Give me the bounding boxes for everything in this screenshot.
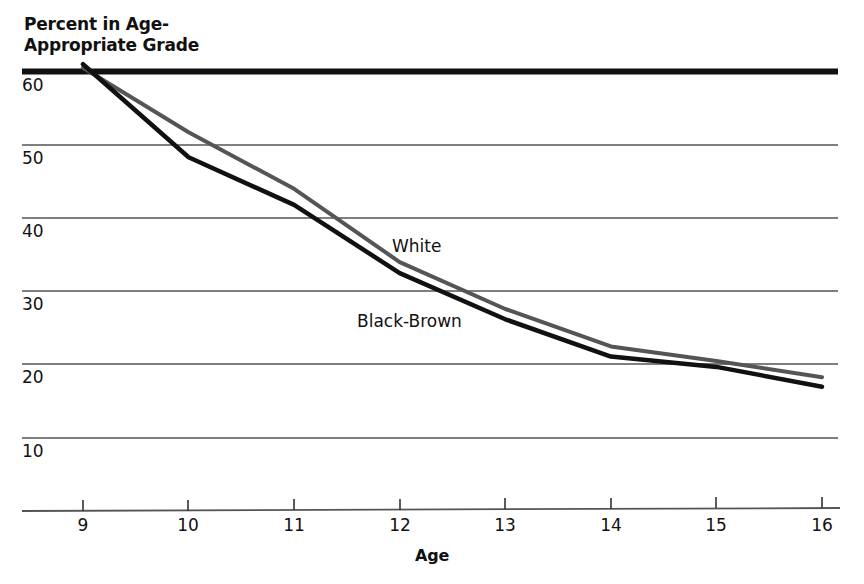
- x-tick-label-10: 10: [177, 516, 199, 534]
- series-line-black-brown: [83, 64, 822, 387]
- x-tick-label-13: 13: [494, 516, 516, 534]
- plot-area: [0, 0, 864, 584]
- x-tick-label-15: 15: [705, 516, 727, 534]
- x-tick-label-11: 11: [283, 516, 305, 534]
- y-tick-label-10: 10: [22, 442, 44, 460]
- series-label-black-brown: Black-Brown: [357, 312, 462, 331]
- series-label-white: White: [392, 237, 441, 256]
- y-tick-label-30: 30: [22, 295, 44, 313]
- x-axis-line: [22, 508, 840, 511]
- y-tick-label-20: 20: [22, 368, 44, 386]
- y-tick-label-40: 40: [22, 222, 44, 240]
- y-tick-label-50: 50: [22, 149, 44, 167]
- x-tick-label-12: 12: [389, 516, 411, 534]
- line-chart: Percent in Age- Appropriate Grade 60 5: [0, 0, 864, 584]
- y-tick-label-60: 60: [22, 76, 44, 94]
- x-axis-title: Age: [0, 545, 864, 566]
- x-tick-label-9: 9: [78, 516, 89, 534]
- x-tick-label-14: 14: [600, 516, 622, 534]
- x-tick-label-16: 16: [811, 516, 833, 534]
